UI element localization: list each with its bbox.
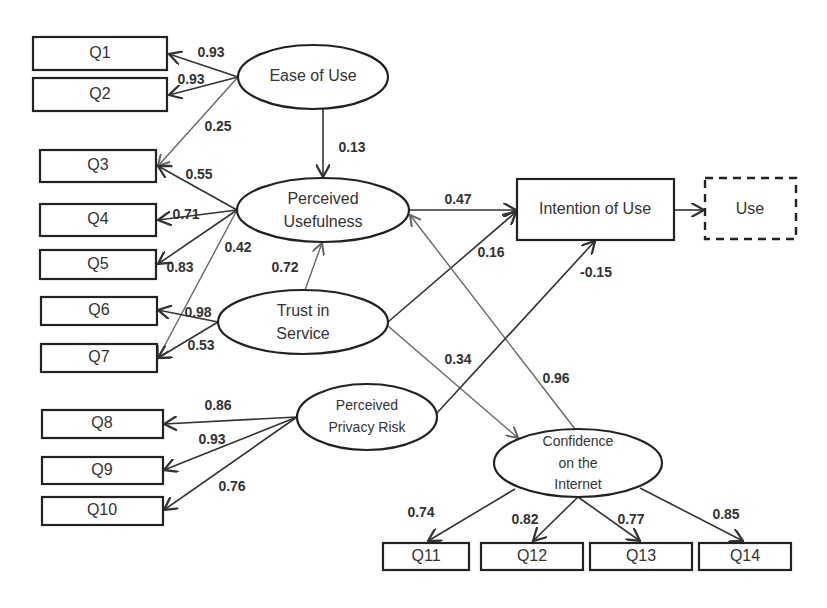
coef-ppr-q9: 0.93 bbox=[198, 431, 225, 447]
indicator-q12: Q12 bbox=[481, 543, 583, 570]
construct-trust-in-service: Trust in Service bbox=[218, 290, 388, 354]
q9-label: Q9 bbox=[91, 461, 112, 478]
q3-label: Q3 bbox=[87, 156, 108, 173]
coef-eou-pu: 0.13 bbox=[338, 139, 365, 155]
edge-coi-q11 bbox=[428, 489, 515, 541]
coef-ppr-q10: 0.76 bbox=[218, 478, 245, 494]
indicator-q4: Q4 bbox=[40, 204, 156, 236]
ease-of-use-label: Ease of Use bbox=[269, 67, 356, 84]
indicator-q8: Q8 bbox=[42, 410, 163, 438]
trust-in-service-label-2: Service bbox=[276, 325, 329, 342]
edge-tis-pu bbox=[305, 243, 322, 290]
edge-coi-q12 bbox=[533, 497, 578, 541]
q4-label: Q4 bbox=[87, 210, 108, 227]
q2-label: Q2 bbox=[89, 85, 110, 102]
trust-in-service-label-1: Trust in bbox=[277, 302, 330, 319]
q5-label: Q5 bbox=[87, 255, 108, 272]
q1-label: Q1 bbox=[89, 44, 110, 61]
q11-label: Q11 bbox=[411, 547, 440, 564]
coef-tis-iou: 0.16 bbox=[477, 244, 504, 260]
coef-pu-q7: 0.42 bbox=[224, 239, 251, 255]
construct-ease-of-use: Ease of Use bbox=[238, 45, 388, 109]
q7-label: Q7 bbox=[88, 348, 109, 365]
edge-ppr-q9 bbox=[164, 417, 297, 470]
coef-pu-iou: 0.47 bbox=[444, 191, 471, 207]
coef-coi-q14: 0.85 bbox=[712, 506, 739, 522]
indicator-q10: Q10 bbox=[42, 497, 163, 525]
coef-pu-q3: 0.55 bbox=[185, 166, 212, 182]
construct-perceived-usefulness: Perceived Usefulness bbox=[237, 178, 409, 242]
indicator-q1: Q1 bbox=[33, 37, 167, 70]
q10-label: Q10 bbox=[87, 501, 117, 518]
coef-eou-q1: 0.93 bbox=[197, 44, 224, 60]
q8-label: Q8 bbox=[91, 414, 112, 431]
q14-label: Q14 bbox=[730, 547, 760, 564]
indicator-q5: Q5 bbox=[40, 250, 156, 279]
coef-eou-q3: 0.25 bbox=[204, 118, 231, 134]
perceived-usefulness-label-1: Perceived bbox=[287, 190, 358, 207]
perceived-privacy-risk-label-2: Privacy Risk bbox=[328, 419, 406, 435]
indicator-q3: Q3 bbox=[40, 150, 156, 182]
intention-of-use-label: Intention of Use bbox=[539, 200, 651, 217]
outcome-intention-of-use: Intention of Use bbox=[517, 179, 674, 240]
indicator-q14: Q14 bbox=[699, 543, 791, 570]
edge-ppr-iou bbox=[437, 241, 595, 413]
construct-perceived-privacy-risk: Perceived Privacy Risk bbox=[297, 384, 437, 450]
perceived-usefulness-label-2: Usefulness bbox=[283, 213, 362, 230]
confidence-label-2: on the bbox=[559, 455, 598, 471]
coef-tis-pu: 0.72 bbox=[271, 259, 298, 275]
indicator-q9: Q9 bbox=[42, 457, 163, 484]
coef-coi-pu: 0.96 bbox=[542, 370, 569, 386]
confidence-label-3: Internet bbox=[554, 476, 602, 492]
coef-tis-coi: 0.34 bbox=[444, 351, 471, 367]
coef-ppr-q8: 0.86 bbox=[204, 397, 231, 413]
indicator-q6: Q6 bbox=[41, 297, 157, 325]
sem-diagram: Q1 Q2 Q3 Q4 Q5 Q6 Q7 Q8 Q9 Q10 Q11 bbox=[0, 0, 827, 608]
outcome-use: Use bbox=[705, 178, 796, 239]
indicator-q7: Q7 bbox=[41, 344, 157, 372]
edge-ppr-q8 bbox=[164, 417, 297, 424]
coef-coi-q11: 0.74 bbox=[407, 504, 434, 520]
coef-tis-q6: 0.98 bbox=[184, 304, 211, 320]
coef-ppr-iou: -0.15 bbox=[580, 264, 612, 280]
q6-label: Q6 bbox=[88, 301, 109, 318]
q13-label: Q13 bbox=[626, 547, 656, 564]
coef-eou-q2: 0.93 bbox=[177, 71, 204, 87]
confidence-label-1: Confidence bbox=[543, 433, 614, 449]
coef-tis-q7: 0.53 bbox=[187, 337, 214, 353]
construct-confidence-on-internet: Confidence on the Internet bbox=[494, 429, 662, 497]
edge-tis-iou bbox=[388, 212, 516, 322]
coef-coi-q13: 0.77 bbox=[617, 511, 644, 527]
coef-coi-q12: 0.82 bbox=[511, 511, 538, 527]
use-label: Use bbox=[736, 200, 765, 217]
indicator-q11: Q11 bbox=[383, 543, 469, 570]
edge-ppr-q10 bbox=[164, 417, 297, 510]
indicator-q2: Q2 bbox=[33, 78, 167, 111]
perceived-privacy-risk-label-1: Perceived bbox=[336, 397, 398, 413]
q12-label: Q12 bbox=[517, 547, 547, 564]
coef-pu-q4: 0.71 bbox=[172, 206, 199, 222]
coef-pu-q5: 0.83 bbox=[166, 259, 193, 275]
indicator-q13: Q13 bbox=[590, 543, 692, 570]
